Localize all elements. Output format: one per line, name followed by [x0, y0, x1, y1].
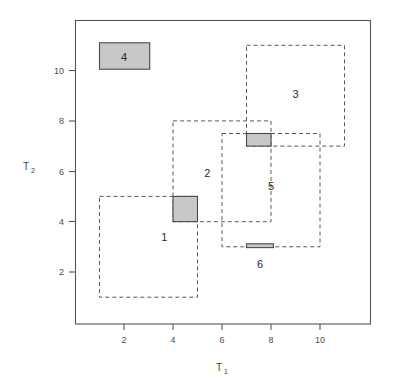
rectangle-label-2: 2: [204, 167, 210, 179]
y-tick-label-10: 10: [54, 66, 64, 76]
rectangle-label-6: 6: [257, 258, 263, 270]
y-axis-title-base: T: [23, 161, 29, 172]
rectangle-label-4: 4: [121, 51, 127, 63]
y-tick-label-4: 4: [59, 217, 64, 227]
rectangle-label-1: 1: [161, 231, 167, 243]
overlap-region-2: [247, 134, 272, 147]
x-tick-label-10: 10: [315, 335, 325, 345]
rectangle-label-3: 3: [292, 88, 298, 100]
rectangles-layer: 123546: [100, 43, 345, 297]
y-tick-label-2: 2: [59, 267, 64, 277]
y-axis-title: T 2: [23, 161, 35, 174]
rectangle-filled-6: [247, 244, 274, 248]
x-tick-label-6: 6: [219, 335, 224, 345]
x-axis-title: T 1: [216, 362, 228, 375]
overlap-region-1: [173, 196, 198, 221]
rectangle-label-5: 5: [268, 180, 274, 192]
y-tick-label-8: 8: [59, 116, 64, 126]
x-tick-label-2: 2: [121, 335, 126, 345]
plot-canvas: 10 8 6 4 2 2 4 6 8 10 T 2 T 1: [0, 0, 401, 385]
y-axis-title-subscript: 2: [31, 167, 35, 174]
x-axis: 2 4 6 8 10: [121, 324, 325, 345]
x-axis-title-base: T: [216, 362, 222, 373]
y-tick-label-6: 6: [59, 167, 64, 177]
x-axis-title-subscript: 1: [224, 368, 228, 375]
x-tick-label-4: 4: [170, 335, 175, 345]
x-tick-label-8: 8: [268, 335, 273, 345]
chart-figure: 10 8 6 4 2 2 4 6 8 10 T 2 T 1: [0, 0, 401, 385]
y-axis: 10 8 6 4 2: [54, 66, 75, 278]
